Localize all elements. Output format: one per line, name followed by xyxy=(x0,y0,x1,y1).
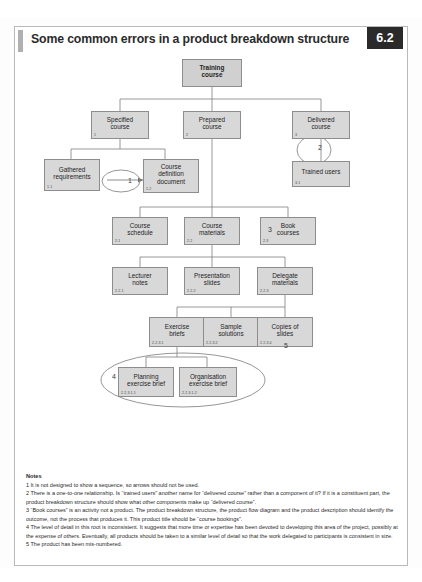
node-label: Presentationslides xyxy=(187,272,237,286)
note-item: 2 There is a one-to-one relationship. Is… xyxy=(26,489,398,506)
node-course-definition-document[interactable]: Coursedefinitiondocument 1.2 xyxy=(143,159,199,193)
header-accent-bar xyxy=(18,30,23,52)
scan-margin-bottom xyxy=(0,568,422,582)
node-code: 2.2.3.4 xyxy=(260,341,272,345)
node-code: 2.2.3 xyxy=(260,289,269,293)
node-course-schedule[interactable]: Courseschedule 2.1 xyxy=(112,217,168,245)
node-code: 1 xyxy=(94,133,96,137)
node-label: Trainingcourse xyxy=(185,64,239,78)
page-root: Some common errors in a product breakdow… xyxy=(0,0,422,582)
node-lecturer-notes[interactable]: Lecturernotes 2.2.1 xyxy=(112,267,168,295)
figure-header: Some common errors in a product breakdow… xyxy=(15,27,407,55)
annotation-marker-3: 3 xyxy=(268,226,272,233)
node-code: 2.1 xyxy=(115,239,120,243)
node-code: 1.2 xyxy=(146,187,151,191)
node-code: 1.1 xyxy=(47,185,52,189)
scan-margin-top xyxy=(0,0,422,18)
node-code: 2.2.2 xyxy=(187,289,196,293)
node-delegate-materials[interactable]: Delegatematerials 2.2.3 xyxy=(257,267,313,295)
annotation-marker-4: 4 xyxy=(112,373,116,380)
node-gathered-requirements[interactable]: Gatheredrequirements 1.1 xyxy=(44,159,100,191)
node-specified-course[interactable]: Specifiedcourse 1 xyxy=(91,111,149,139)
note-item: 5 The product has been mis-numbered. xyxy=(26,540,398,549)
node-label: Preparedcourse xyxy=(186,116,238,130)
notes-heading: Notes xyxy=(26,473,398,479)
node-training-course[interactable]: Trainingcourse xyxy=(182,59,242,87)
sequence-arrow xyxy=(107,178,143,183)
note-item: 4 The level of detail in this root is in… xyxy=(26,523,398,540)
node-label: Courseschedule xyxy=(115,222,165,236)
figure-frame: Some common errors in a product breakdow… xyxy=(14,26,408,566)
node-code: 2.2.3.1.2 xyxy=(182,391,197,395)
annotation-marker-2: 2 xyxy=(318,144,322,151)
page-title: Some common errors in a product breakdow… xyxy=(31,32,349,46)
node-exercise-briefs[interactable]: Exercisebriefs 2.2.3.1 xyxy=(149,317,205,347)
annotation-marker-1: 1 xyxy=(128,177,132,184)
node-prepared-course[interactable]: Preparedcourse 2 xyxy=(183,111,241,139)
node-code: 2.2 xyxy=(187,239,192,243)
annotation-marker-5: 5 xyxy=(284,342,288,349)
node-code: 2.2.1 xyxy=(115,289,124,293)
node-label: Organisationexercise brief xyxy=(182,373,234,387)
node-code: 3 xyxy=(295,133,297,137)
node-label: Coursedefinitiondocument xyxy=(146,163,196,185)
node-planning-exercise-brief[interactable]: Planningexercise brief 2.2.3.1.1 xyxy=(118,367,174,397)
node-code: 2.2.3.2 xyxy=(206,341,218,345)
node-label: Deliveredcourse xyxy=(295,116,347,130)
note-item: 3 “Book courses” is an activity not a pr… xyxy=(26,506,398,523)
node-sample-solutions[interactable]: Samplesolutions 2.2.3.2 xyxy=(203,317,259,347)
figure-number-badge: 6.2 xyxy=(367,27,403,49)
node-label: Copies ofslides xyxy=(260,323,310,337)
note-item: 1 It is not designed to show a sequence,… xyxy=(26,481,398,490)
node-label: Planningexercise brief xyxy=(121,373,171,387)
node-code: 2 xyxy=(186,133,188,137)
node-code: 2.2.3.1 xyxy=(152,341,164,345)
node-organisation-exercise-brief[interactable]: Organisationexercise brief 2.2.3.1.2 xyxy=(179,367,237,397)
node-label: Specifiedcourse xyxy=(94,116,146,130)
node-delivered-course[interactable]: Deliveredcourse 3 xyxy=(292,111,350,139)
node-course-materials[interactable]: Coursematerials 2.2 xyxy=(184,217,240,245)
node-label: Exercisebriefs xyxy=(152,323,202,337)
node-presentation-slides[interactable]: Presentationslides 2.2.2 xyxy=(184,267,240,295)
diagram-canvas: Trainingcourse Specifiedcourse 1 Prepare… xyxy=(15,55,409,455)
node-label: Coursematerials xyxy=(187,222,237,236)
node-label: Gatheredrequirements xyxy=(47,166,97,180)
node-label: Lecturernotes xyxy=(115,272,165,286)
node-code: 3.1 xyxy=(295,181,300,185)
node-code: 2.2.3.1.1 xyxy=(121,391,136,395)
node-code: 2.3 xyxy=(263,239,268,243)
node-label: Samplesolutions xyxy=(206,323,256,337)
node-trained-users[interactable]: Trained users 3.1 xyxy=(292,161,350,187)
node-label: Delegatematerials xyxy=(260,272,310,286)
node-label: Trained users xyxy=(295,168,347,175)
notes-section: Notes 1 It is not designed to show a seq… xyxy=(26,473,398,549)
